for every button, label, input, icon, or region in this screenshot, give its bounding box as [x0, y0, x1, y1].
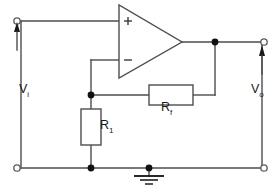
terminal-output-bottom[interactable] [261, 165, 267, 171]
label-input-resistor-sub: 1 [109, 126, 113, 135]
node-dot-inverting [88, 92, 95, 99]
terminal-output-top[interactable] [261, 39, 267, 45]
label-output-voltage-sub: o [259, 90, 263, 99]
label-feedback-resistor: Rf [161, 101, 172, 117]
label-feedback-resistor-main: R [161, 100, 170, 114]
output-voltage-arrow-icon [259, 45, 265, 74]
label-input-voltage-sub: i [27, 90, 29, 99]
input-resistor-body [81, 109, 101, 145]
terminal-input-bottom[interactable] [14, 165, 20, 171]
label-input-resistor-main: R [100, 118, 109, 132]
label-output-voltage: Vo [251, 83, 264, 99]
input-voltage-arrow-icon [14, 22, 20, 50]
ground-symbol-icon [134, 176, 164, 184]
label-feedback-resistor-sub: f [170, 108, 172, 117]
schematic-canvas [0, 0, 278, 191]
label-input-resistor: R1 [100, 119, 113, 135]
opamp-body [119, 5, 182, 78]
node-dot-ground-tap [146, 165, 153, 172]
label-input-voltage: Vi [19, 83, 29, 99]
circuit-diagram: Vi Vo Rf R1 [0, 0, 278, 191]
node-dot-ground-return [88, 165, 95, 172]
node-dot-output [212, 39, 219, 46]
